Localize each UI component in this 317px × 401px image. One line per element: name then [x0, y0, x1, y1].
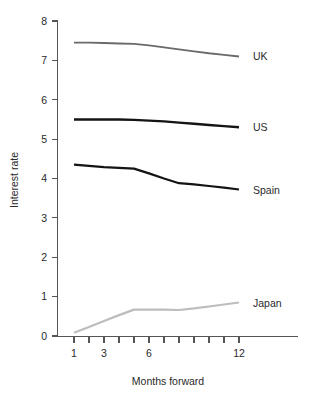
y-tick-label-3: 3 [41, 212, 47, 224]
y-axis: 012345678 [41, 15, 57, 342]
series-line-uk [74, 43, 239, 57]
series-label-japan: Japan [253, 297, 282, 309]
series-layer [74, 43, 239, 333]
series-label-group: UKUSSpainJapan [253, 50, 282, 308]
x-tick-label-12: 12 [233, 347, 245, 359]
line-chart: 012345678 13612 UKUSSpainJapan Months fo… [0, 0, 317, 401]
series-line-us [74, 119, 239, 127]
series-line-spain [74, 165, 239, 190]
y-tick-label-8: 8 [41, 15, 47, 27]
x-tick-label-1: 1 [71, 347, 77, 359]
x-axis-title: Months forward [132, 375, 205, 387]
y-tick-label-2: 2 [41, 251, 47, 263]
y-tick-label-1: 1 [41, 290, 47, 302]
x-tick-label-3: 3 [101, 347, 107, 359]
x-tick-group: 13612 [71, 337, 245, 360]
y-tick-label-6: 6 [41, 94, 47, 106]
y-axis-title: Interest rate [8, 152, 20, 208]
x-tick-label-6: 6 [146, 347, 152, 359]
x-axis: 13612 [58, 337, 299, 360]
series-label-uk: UK [253, 50, 268, 62]
y-tick-group: 012345678 [41, 15, 57, 342]
y-tick-label-4: 4 [41, 172, 47, 184]
chart-container: 012345678 13612 UKUSSpainJapan Months fo… [0, 0, 317, 401]
y-tick-label-7: 7 [41, 54, 47, 66]
series-label-us: US [253, 121, 268, 133]
series-line-japan [74, 303, 239, 333]
y-tick-label-5: 5 [41, 133, 47, 145]
y-tick-label-0: 0 [41, 330, 47, 342]
series-label-spain: Spain [253, 184, 280, 196]
